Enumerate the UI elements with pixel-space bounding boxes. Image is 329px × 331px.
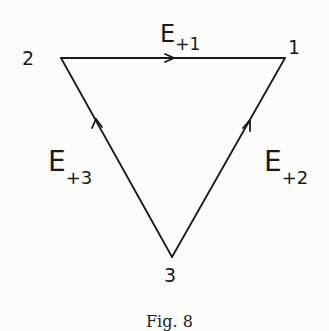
edge-label-e2: E+2: [264, 145, 308, 188]
edge-label-e3: E+3: [48, 145, 92, 188]
vertex-label-1: 1: [288, 36, 300, 58]
vertex-label-2: 2: [22, 47, 34, 69]
figure-caption: Fig. 8: [146, 312, 193, 331]
figure: 2 1 3 E+1 E+3 E+2 Fig. 8: [0, 0, 329, 331]
triangle-diagram: 2 1 3 E+1 E+3 E+2 Fig. 8: [0, 0, 329, 331]
edge-3-to-2: [61, 58, 172, 257]
edge-label-e1: E+1: [160, 20, 200, 54]
vertex-label-3: 3: [164, 264, 176, 286]
